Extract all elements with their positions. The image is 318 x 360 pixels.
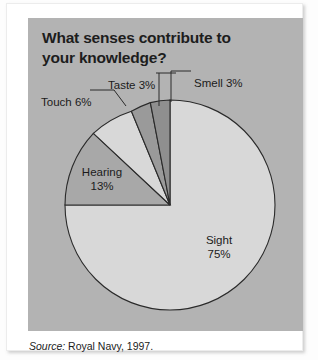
page-canvas: What senses contribute toyour knowledge? [0,0,318,360]
source-text: Royal Navy, 1997. [65,340,153,352]
source-caption: Source: Royal Navy, 1997. [29,340,153,352]
pie-label-smell: Smell 3% [194,77,243,89]
pie-label-hearing-value: 13% [66,180,138,194]
pie-label-taste: Taste 3% [108,79,155,91]
source-prefix: Source: [29,340,65,352]
figure-card: What senses contribute toyour knowledge? [6,3,303,351]
leader-line-touch-stem [114,90,126,106]
pie-label-hearing-name: Hearing [66,166,138,180]
pie-label-sight-value: 75% [191,248,247,262]
chart-panel: What senses contribute toyour knowledge? [28,18,303,331]
pie-label-touch: Touch 6% [41,96,92,108]
pie-label-sight: Sight 75% [191,234,247,262]
pie-label-sight-name: Sight [191,234,247,248]
pie-label-hearing: Hearing 13% [66,166,138,194]
